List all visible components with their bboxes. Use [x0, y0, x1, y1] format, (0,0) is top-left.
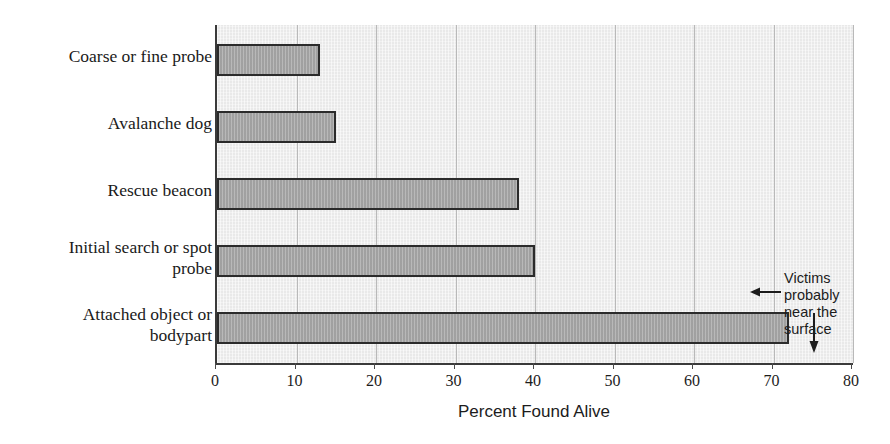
- tick-mark-10: [295, 363, 296, 369]
- x-tick-label-30: 30: [434, 372, 474, 390]
- x-tick-label-50: 50: [593, 372, 633, 390]
- tick-mark-0: [215, 363, 216, 369]
- tick-mark-50: [613, 363, 614, 369]
- bar-initial-search-or-spot-probe: [217, 245, 535, 277]
- bar-avalanche-dog: [217, 111, 336, 143]
- x-tick-label-80: 80: [831, 372, 871, 390]
- category-label-avalanche-dog: Avalanche dog: [0, 113, 212, 134]
- x-axis-line: [215, 363, 853, 365]
- category-label-initial-search-or-spot-probe: Initial search or spot probe: [0, 237, 212, 279]
- tick-mark-40: [533, 363, 534, 369]
- x-tick-label-10: 10: [275, 372, 315, 390]
- tick-mark-20: [374, 363, 375, 369]
- bar-attached-object-or-bodypart: [217, 312, 789, 344]
- tick-mark-30: [454, 363, 455, 369]
- x-tick-label-40: 40: [513, 372, 553, 390]
- gridline-80: [853, 25, 854, 363]
- bar-coarse-or-fine-probe: [217, 44, 320, 76]
- bar-chart: Coarse or fine probe Avalanche dog Rescu…: [0, 0, 890, 444]
- tick-mark-80: [851, 363, 852, 369]
- annotation-left-arrow-icon: [750, 286, 782, 298]
- x-tick-label-20: 20: [354, 372, 394, 390]
- tick-mark-60: [692, 363, 693, 369]
- tick-mark-70: [772, 363, 773, 369]
- annotation-victims-near-surface: Victims probably near the surface: [784, 270, 853, 338]
- category-label-coarse-or-fine-probe: Coarse or fine probe: [0, 46, 212, 67]
- category-label-rescue-beacon: Rescue beacon: [0, 180, 212, 201]
- x-tick-label-0: 0: [195, 372, 235, 390]
- category-label-attached-object-or-bodypart: Attached object or bodypart: [0, 304, 212, 346]
- x-tick-label-60: 60: [672, 372, 712, 390]
- plot-area: Victims probably near the surface: [215, 25, 853, 363]
- x-tick-label-70: 70: [752, 372, 792, 390]
- x-axis-title: Percent Found Alive: [215, 402, 853, 422]
- bar-rescue-beacon: [217, 178, 519, 210]
